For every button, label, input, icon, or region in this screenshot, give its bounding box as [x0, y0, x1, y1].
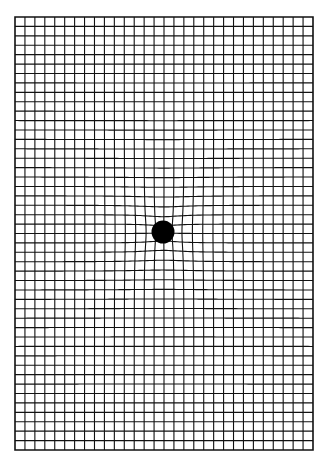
grid-horizontal-line	[15, 289, 313, 290]
warped-grid-diagram	[0, 0, 327, 462]
mass-circle-icon	[152, 221, 175, 244]
grid-horizontal-line	[15, 177, 313, 178]
diagram-stage	[0, 0, 327, 462]
